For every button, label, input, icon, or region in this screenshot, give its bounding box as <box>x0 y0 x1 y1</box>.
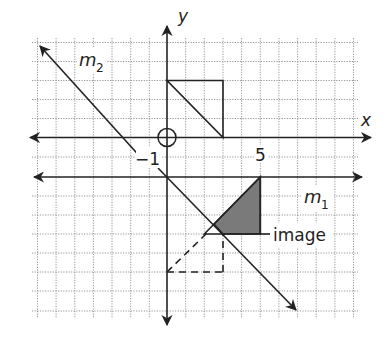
y-axis-label: y <box>177 6 189 26</box>
m2-subscript: 2 <box>96 61 104 75</box>
coordinate-plane-diagram: y x m 2 −1 5 m 1 image <box>0 0 385 338</box>
x-axis-label: x <box>360 110 372 130</box>
image-label: image <box>273 225 326 245</box>
tick-label-5: 5 <box>255 145 266 165</box>
tick-label-neg1: −1 <box>135 149 160 169</box>
original-triangle <box>167 81 223 138</box>
m1-label: m <box>304 186 322 207</box>
m1-subscript: 1 <box>321 198 329 212</box>
m2-label: m <box>79 49 97 70</box>
